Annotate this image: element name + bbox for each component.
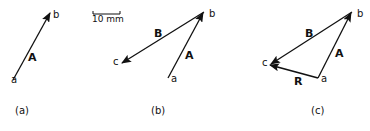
- scale-bar-label: 10 mm: [92, 15, 124, 24]
- point-a-label: a: [321, 74, 327, 84]
- point-b-label: b: [357, 9, 363, 19]
- vector-B-label: B: [305, 28, 313, 39]
- caption-b: (b): [151, 106, 165, 116]
- vector-a-A: [13, 13, 50, 80]
- point-a-label: a: [11, 75, 17, 85]
- point-a-label: a: [171, 74, 177, 84]
- point-c-label: c: [262, 58, 268, 68]
- vector-A-label: A: [28, 52, 37, 63]
- vector-R-label: R: [294, 76, 302, 87]
- vector-A-label: A: [335, 48, 344, 59]
- point-b-label: b: [53, 10, 59, 20]
- vector-B-label: B: [154, 28, 162, 39]
- point-b-label: b: [209, 9, 215, 19]
- caption-c: (c): [311, 106, 324, 116]
- caption-a: (a): [15, 106, 29, 116]
- point-c-label: c: [113, 57, 119, 67]
- vector-A-label: A: [185, 50, 194, 61]
